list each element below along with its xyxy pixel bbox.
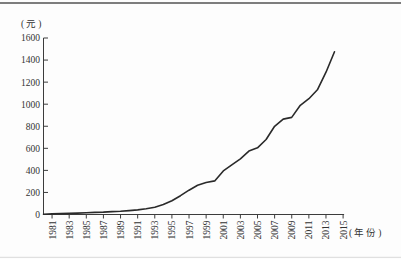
y-tick-label: 0 xyxy=(35,210,40,220)
x-tick-label: 1999 xyxy=(202,220,212,239)
x-tick-label: 2013 xyxy=(321,220,331,239)
x-tick-label: 1987 xyxy=(99,220,109,239)
y-tick-label: 1000 xyxy=(21,100,40,110)
chart-page: 0200400600800100012001400160019811983198… xyxy=(0,0,401,259)
x-tick-label: 1981 xyxy=(48,220,58,239)
x-tick-label: 2001 xyxy=(219,220,229,239)
x-tick-label: 1989 xyxy=(116,220,126,239)
x-tick-label: 1983 xyxy=(65,220,75,239)
x-tick-label: 1991 xyxy=(133,220,143,239)
x-tick-label: 2005 xyxy=(253,220,263,239)
x-tick-label: 2003 xyxy=(236,220,246,239)
x-tick-label: 2007 xyxy=(270,220,280,239)
y-axis-unit-label: (元) xyxy=(21,19,43,30)
data-line xyxy=(44,52,335,214)
x-tick-label: 2015 xyxy=(339,220,349,239)
x-tick-label: 1993 xyxy=(150,220,160,239)
y-tick-label: 600 xyxy=(26,144,41,154)
y-tick-label: 200 xyxy=(26,188,41,198)
y-tick-label: 1600 xyxy=(21,33,40,43)
x-tick-label: 2009 xyxy=(287,220,297,239)
line-chart: 0200400600800100012001400160019811983198… xyxy=(0,0,401,259)
y-tick-label: 1400 xyxy=(21,55,40,65)
x-axis-unit-label: (年份) xyxy=(349,227,383,239)
y-tick-label: 400 xyxy=(26,166,41,176)
x-tick-label: 2011 xyxy=(304,220,314,239)
y-tick-label: 800 xyxy=(26,122,41,132)
line-chart-figure: 0200400600800100012001400160019811983198… xyxy=(0,0,401,259)
y-tick-label: 1200 xyxy=(21,78,40,88)
x-tick-label: 1985 xyxy=(82,220,92,239)
x-tick-label: 1997 xyxy=(185,220,195,239)
x-tick-label: 1995 xyxy=(167,220,177,239)
